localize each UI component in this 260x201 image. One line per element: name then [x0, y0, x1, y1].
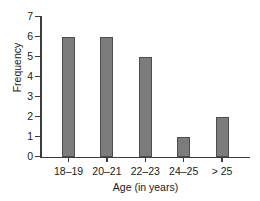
- y-axis-tick-label: 5: [13, 51, 33, 62]
- y-axis-tick-label: 4: [13, 71, 33, 82]
- x-axis-tick-label: > 25: [196, 166, 248, 177]
- y-axis-tick: [35, 76, 40, 77]
- x-axis-tick: [183, 157, 184, 162]
- frequency-bar-chart: Frequency Age (in years) 01234567 18–192…: [0, 0, 260, 201]
- y-axis-tick-label: 6: [13, 31, 33, 42]
- y-axis-title: Frequency: [12, 13, 23, 123]
- y-axis-tick: [35, 96, 40, 97]
- bar: [177, 137, 190, 157]
- y-axis-tick-label: 7: [13, 11, 33, 22]
- x-axis-tick: [68, 157, 69, 162]
- y-axis-tick: [35, 36, 40, 37]
- y-axis-tick: [35, 16, 40, 17]
- x-axis-tick: [106, 157, 107, 162]
- bar: [216, 117, 229, 157]
- bar: [62, 37, 75, 157]
- y-axis-line: [40, 16, 42, 158]
- y-axis-tick: [35, 56, 40, 57]
- x-axis-title: Age (in years): [41, 182, 250, 193]
- y-axis-tick: [35, 116, 40, 117]
- y-axis-tick-label: 0: [13, 151, 33, 162]
- x-axis-tick: [221, 157, 222, 162]
- y-axis-tick: [35, 156, 40, 157]
- y-axis-tick: [35, 136, 40, 137]
- y-axis-tick-label: 1: [13, 131, 33, 142]
- x-axis-tick: [145, 157, 146, 162]
- bar: [100, 37, 113, 157]
- bar: [139, 57, 152, 157]
- y-axis-tick-label: 2: [13, 111, 33, 122]
- chart-title: [0, 0, 260, 2]
- y-axis-tick-label: 3: [13, 91, 33, 102]
